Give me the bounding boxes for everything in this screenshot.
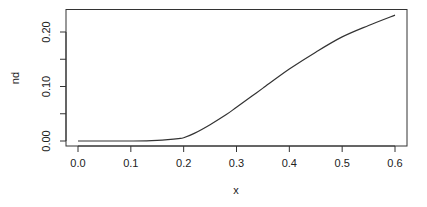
x-tick-label: 0.2 — [176, 157, 191, 169]
x-tick-label: 0.0 — [70, 157, 85, 169]
y-tick-label: 0.10 — [40, 76, 52, 97]
x-tick-label: 0.1 — [123, 157, 138, 169]
y-tick-label: 0.00 — [40, 130, 52, 151]
plot-frame — [66, 10, 407, 147]
x-tick-label: 0.5 — [335, 157, 350, 169]
y-axis-label: nd — [9, 72, 21, 84]
x-axis-label: x — [233, 184, 239, 196]
y-axis: 0.000.100.20 — [40, 21, 66, 151]
line-chart: 0.00.10.20.30.40.50.6 0.000.100.20 x nd — [0, 0, 427, 207]
x-tick-label: 0.3 — [229, 157, 244, 169]
x-axis: 0.00.10.20.30.40.50.6 — [70, 146, 402, 169]
x-tick-label: 0.6 — [387, 157, 402, 169]
x-tick-label: 0.4 — [282, 157, 297, 169]
y-tick-label: 0.20 — [40, 21, 52, 42]
series-line-nd — [78, 15, 395, 141]
